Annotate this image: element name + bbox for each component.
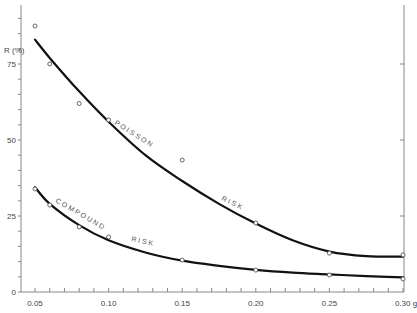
compound-risk-data-point [107, 235, 111, 239]
x-tick-label: 0.10 [101, 299, 117, 308]
y-tick-label: 0 [12, 288, 17, 297]
poisson-risk-data-point [77, 102, 81, 106]
compound-risk-label: R I S K [131, 235, 154, 247]
compound-risk-data-point [180, 258, 184, 262]
x-tick-label: 0.20 [248, 299, 264, 308]
poisson-risk-data-point [107, 118, 111, 122]
compound-risk-data-point [327, 273, 331, 277]
axis-tick-labels: 02550750.050.100.150.200.250.30 g [7, 60, 417, 308]
poisson-risk-data-point [401, 253, 405, 257]
poisson-risk-data-point [33, 24, 37, 28]
risk-vs-acceleration-chart: 02550750.050.100.150.200.250.30 g R (%) … [0, 0, 417, 313]
y-tick-label: 50 [7, 136, 16, 145]
poisson-risk-data-point [48, 62, 52, 66]
poisson-risk-label: R I S K [221, 195, 244, 211]
fitted-curves [35, 40, 403, 278]
compound-risk-data-point [77, 225, 81, 229]
compound-risk-data-point [48, 203, 52, 207]
poisson-risk-data-point [254, 221, 258, 225]
poisson-risk-data-point [327, 251, 331, 255]
x-tick-label: 0.25 [322, 299, 338, 308]
x-tick-label: 0.15 [174, 299, 190, 308]
y-axis-title: R (%) [4, 46, 25, 55]
compound-risk-data-point [33, 187, 37, 191]
y-tick-label: 25 [7, 212, 16, 221]
poisson-risk-curve [35, 40, 403, 257]
axis-ticks [18, 18, 404, 292]
compound-risk-curve [35, 187, 403, 277]
poisson-risk-data-point [180, 158, 184, 162]
y-tick-label: 75 [7, 60, 16, 69]
x-tick-label: 0.30 g [395, 299, 417, 308]
compound-risk-data-point [254, 268, 258, 272]
data-point-markers [33, 24, 405, 281]
compound-risk-data-point [401, 277, 405, 281]
x-tick-label: 0.05 [27, 299, 43, 308]
axes [21, 5, 404, 292]
